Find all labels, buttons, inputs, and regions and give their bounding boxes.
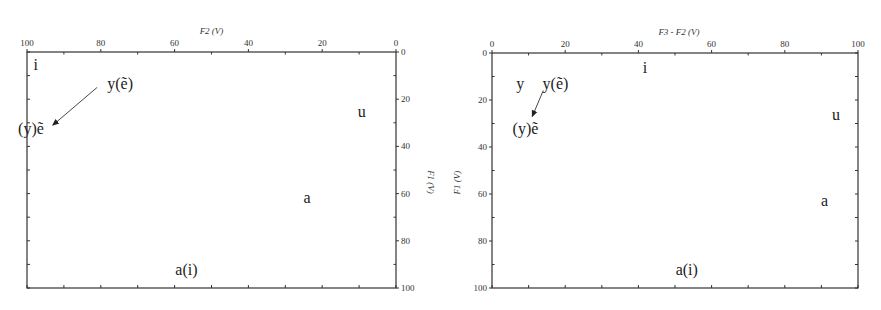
y-tick-label: 20 xyxy=(478,95,488,105)
x-tick-label: 60 xyxy=(170,38,180,48)
x-tick-label: 80 xyxy=(780,39,790,49)
y-tick-label: 60 xyxy=(478,189,488,199)
vowel-label: a xyxy=(821,192,828,209)
vowel-label: a(i) xyxy=(676,261,698,279)
y-tick-label: 40 xyxy=(401,141,411,151)
vowel-label: a xyxy=(303,189,310,206)
arrow-annotation xyxy=(532,91,543,117)
x-tick-label: 100 xyxy=(20,38,34,48)
y-axis-title: F1 (V) xyxy=(452,171,462,196)
plot-frame xyxy=(27,52,396,288)
x-tick-label: 20 xyxy=(561,39,571,49)
chart-right-f3f2-f1: 020406080100020406080100F3 - F2 (V)F1 (V… xyxy=(452,27,865,293)
x-tick-label: 40 xyxy=(244,38,254,48)
vowel-label: (y)ẽ xyxy=(18,120,44,138)
x-tick-label: 40 xyxy=(634,39,644,49)
vowel-label: u xyxy=(358,103,366,120)
vowel-label: y(ẽ) xyxy=(107,75,133,93)
y-tick-label: 20 xyxy=(401,94,411,104)
y-tick-label: 80 xyxy=(401,236,411,246)
x-axis-title: F3 - F2 (V) xyxy=(657,27,699,37)
vowel-label: y(ẽ) xyxy=(543,75,569,93)
vowel-label: a(i) xyxy=(175,261,197,279)
y-tick-label: 100 xyxy=(474,283,488,293)
y-tick-label: 60 xyxy=(401,189,411,199)
vowel-formant-charts: 100806040200020406080100F2 (V)F1 (V)iy(ẽ… xyxy=(0,0,881,310)
x-tick-label: 100 xyxy=(851,39,865,49)
vowel-label: i xyxy=(33,56,38,73)
x-tick-label: 0 xyxy=(394,38,399,48)
chart-left-f2-f1: 100806040200020406080100F2 (V)F1 (V)iy(ẽ… xyxy=(18,26,436,293)
y-tick-label: 40 xyxy=(478,142,488,152)
y-axis-title: F1 (V) xyxy=(426,169,436,194)
y-tick-label: 80 xyxy=(478,236,488,246)
y-tick-label: 0 xyxy=(401,47,406,57)
x-tick-label: 60 xyxy=(707,39,717,49)
x-tick-label: 0 xyxy=(490,39,495,49)
y-tick-label: 0 xyxy=(483,48,488,58)
x-axis-title: F2 (V) xyxy=(199,26,224,36)
vowel-label: (y)ẽ xyxy=(513,120,539,138)
arrow-annotation xyxy=(53,87,97,125)
x-tick-label: 20 xyxy=(318,38,328,48)
vowel-label: i xyxy=(643,59,648,76)
x-tick-label: 80 xyxy=(96,38,106,48)
vowel-label: y xyxy=(516,75,524,93)
y-tick-label: 100 xyxy=(401,283,415,293)
vowel-label: u xyxy=(832,106,840,123)
